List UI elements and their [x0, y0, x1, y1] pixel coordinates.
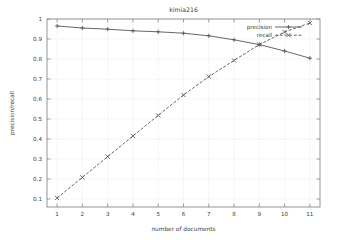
- ytick-label-0.7: 0.7: [33, 76, 42, 82]
- ytick-label-0.2: 0.2: [33, 176, 42, 182]
- xtick-label-6: 6: [182, 211, 186, 217]
- xtick-label-5: 5: [156, 211, 160, 217]
- legend-label-precision: precision: [247, 24, 273, 31]
- ytick-label-0.9: 0.9: [33, 36, 42, 42]
- y-axis-label: precision/recall: [9, 91, 16, 135]
- ytick-label-0.8: 0.8: [33, 56, 42, 62]
- chart-figure: 0.10.20.30.40.50.60.70.80.91123456789101…: [0, 0, 339, 243]
- xtick-label-3: 3: [106, 211, 110, 217]
- xtick-label-7: 7: [207, 211, 211, 217]
- xtick-label-2: 2: [81, 211, 85, 217]
- ytick-label-0.4: 0.4: [33, 136, 42, 142]
- ytick-label-1: 1: [38, 16, 42, 22]
- xtick-label-8: 8: [232, 211, 236, 217]
- ytick-label-0.3: 0.3: [33, 156, 42, 162]
- xtick-label-11: 11: [306, 211, 314, 217]
- ytick-label-0.6: 0.6: [33, 96, 42, 102]
- legend-label-recall: recall: [257, 32, 273, 38]
- xtick-label-10: 10: [281, 211, 289, 217]
- x-axis-label: number of documents: [151, 226, 215, 232]
- chart-title: kimia216: [169, 6, 198, 13]
- ytick-label-0.5: 0.5: [33, 116, 42, 122]
- xtick-label-9: 9: [258, 211, 262, 217]
- precision-recall-chart: 0.10.20.30.40.50.60.70.80.91123456789101…: [0, 0, 339, 243]
- xtick-label-4: 4: [131, 211, 135, 217]
- xtick-label-1: 1: [55, 211, 59, 217]
- ytick-label-0.1: 0.1: [33, 196, 42, 202]
